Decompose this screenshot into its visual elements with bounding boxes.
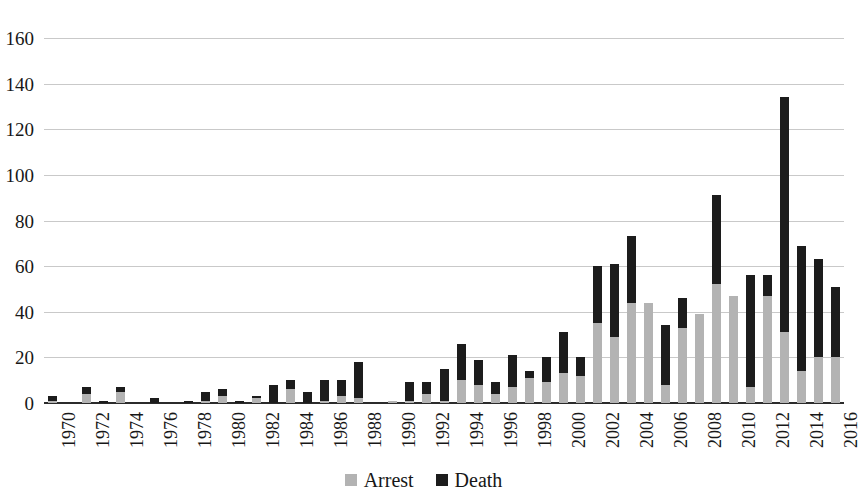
bar-segment-death — [474, 360, 483, 385]
bar-segment-death — [82, 387, 91, 394]
bar-column-2013[interactable] — [780, 38, 789, 403]
bar-column-1996[interactable] — [491, 38, 500, 403]
bar-column-1983[interactable] — [269, 38, 278, 403]
bar-column-1986[interactable] — [320, 38, 329, 403]
bar-column-1994[interactable] — [457, 38, 466, 403]
x-tick-label-2010: 2010 — [740, 412, 758, 448]
bar-segment-arrest — [286, 389, 295, 403]
bar-column-2001[interactable] — [576, 38, 585, 403]
bar-column-1980[interactable] — [218, 38, 227, 403]
x-tick-label-1980: 1980 — [230, 412, 248, 448]
bar-segment-arrest — [422, 394, 431, 403]
bar-segment-arrest — [593, 323, 602, 403]
bar-column-1974[interactable] — [116, 38, 125, 403]
bar-column-2016[interactable] — [831, 38, 840, 403]
bar-column-1976[interactable] — [150, 38, 159, 403]
bar-column-1971[interactable] — [65, 38, 74, 403]
bar-segment-arrest — [576, 376, 585, 403]
x-tick-label-1984: 1984 — [298, 412, 316, 448]
bar-column-1985[interactable] — [303, 38, 312, 403]
x-tick-label-2006: 2006 — [672, 412, 690, 448]
bar-segment-arrest — [508, 387, 517, 403]
bar-column-2015[interactable] — [814, 38, 823, 403]
x-tick-label-1976: 1976 — [162, 412, 180, 448]
bar-column-1973[interactable] — [99, 38, 108, 403]
bar-column-1981[interactable] — [235, 38, 244, 403]
bar-column-2005[interactable] — [644, 38, 653, 403]
bar-column-1984[interactable] — [286, 38, 295, 403]
x-tick-label-1998: 1998 — [536, 412, 554, 448]
y-tick-label-40: 40 — [15, 302, 34, 321]
bar-segment-arrest — [797, 371, 806, 403]
x-tick-label-1996: 1996 — [502, 412, 520, 448]
x-tick-label-2002: 2002 — [604, 412, 622, 448]
bar-segment-arrest — [831, 357, 840, 403]
bar-column-1988[interactable] — [354, 38, 363, 403]
bar-segment-death — [712, 195, 721, 284]
bar-segment-death — [831, 287, 840, 358]
y-tick-label-160: 160 — [6, 29, 35, 48]
bar-column-1972[interactable] — [82, 38, 91, 403]
bar-column-1989[interactable] — [371, 38, 380, 403]
x-tick-label-1986: 1986 — [332, 412, 350, 448]
chart-legend: Arrest Death — [0, 466, 847, 494]
x-tick-label-1972: 1972 — [94, 412, 112, 448]
bar-segment-death — [525, 371, 534, 378]
bar-column-1993[interactable] — [440, 38, 449, 403]
x-tick-label-2000: 2000 — [570, 412, 588, 448]
x-tick-label-2008: 2008 — [706, 412, 724, 448]
bar-segment-arrest — [678, 328, 687, 403]
x-tick-label-1988: 1988 — [366, 412, 384, 448]
bar-column-2012[interactable] — [763, 38, 772, 403]
bar-segment-arrest — [542, 382, 551, 403]
bar-segment-arrest — [405, 401, 414, 403]
bar-column-2004[interactable] — [627, 38, 636, 403]
y-tick-label-60: 60 — [15, 257, 34, 276]
bar-segment-arrest — [201, 401, 210, 403]
bar-column-2006[interactable] — [661, 38, 670, 403]
bar-segment-arrest — [48, 401, 57, 403]
bar-segment-death — [491, 382, 500, 393]
bar-segment-death — [559, 332, 568, 373]
x-tick-label-1994: 1994 — [468, 412, 486, 448]
death-swatch-icon — [436, 474, 448, 486]
bar-segment-death — [354, 362, 363, 399]
bar-segment-death — [116, 387, 125, 392]
bar-segment-death — [661, 325, 670, 384]
bar-segment-death — [269, 385, 278, 403]
bar-column-1991[interactable] — [405, 38, 414, 403]
bar-column-1975[interactable] — [133, 38, 142, 403]
bar-column-2010[interactable] — [729, 38, 738, 403]
bar-segment-arrest — [712, 284, 721, 403]
bar-column-1987[interactable] — [337, 38, 346, 403]
x-axis: 1970197219741976197819801982198419861988… — [44, 406, 844, 466]
bar-column-1982[interactable] — [252, 38, 261, 403]
bar-column-1997[interactable] — [508, 38, 517, 403]
bar-segment-death — [593, 266, 602, 323]
bar-column-2002[interactable] — [593, 38, 602, 403]
bar-segment-death — [780, 97, 789, 332]
bar-column-1999[interactable] — [542, 38, 551, 403]
bar-column-1979[interactable] — [201, 38, 210, 403]
bar-column-1990[interactable] — [388, 38, 397, 403]
legend-item-arrest[interactable]: Arrest — [345, 470, 414, 490]
bar-segment-death — [99, 401, 108, 403]
bar-column-2007[interactable] — [678, 38, 687, 403]
bar-column-2000[interactable] — [559, 38, 568, 403]
bar-column-2014[interactable] — [797, 38, 806, 403]
bar-column-1992[interactable] — [422, 38, 431, 403]
bar-column-1978[interactable] — [184, 38, 193, 403]
bar-column-2009[interactable] — [712, 38, 721, 403]
x-tick-label-1970: 1970 — [60, 412, 78, 448]
legend-item-death[interactable]: Death — [436, 470, 503, 490]
bar-column-1995[interactable] — [474, 38, 483, 403]
bar-column-2008[interactable] — [695, 38, 704, 403]
bar-segment-arrest — [729, 296, 738, 403]
bar-column-2011[interactable] — [746, 38, 755, 403]
x-tick-label-1978: 1978 — [196, 412, 214, 448]
bar-column-1998[interactable] — [525, 38, 534, 403]
bar-column-1977[interactable] — [167, 38, 176, 403]
x-tick-label-1974: 1974 — [128, 412, 146, 448]
bar-column-1970[interactable] — [48, 38, 57, 403]
bar-column-2003[interactable] — [610, 38, 619, 403]
